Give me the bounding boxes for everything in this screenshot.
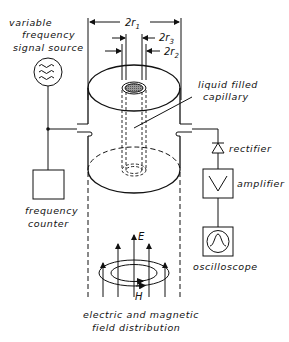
field-distribution: E H electric and magnetic field distribu…: [83, 231, 199, 333]
e-field-label: E: [138, 231, 145, 242]
h-field-label: H: [135, 291, 143, 302]
source-label-3: signal source: [13, 42, 84, 53]
dim-label-2r1: 2r1: [125, 17, 140, 31]
capillary-label-1: liquid filled: [198, 79, 258, 90]
amplifier-label: amplifier: [237, 178, 285, 189]
amplifier-box: [203, 169, 233, 198]
dim-label-2r2: 2r2: [164, 46, 179, 60]
field-label-2: field distribution: [92, 322, 180, 333]
signal-source: variable frequency signal source: [9, 17, 84, 170]
source-label-2: frequency: [22, 29, 75, 40]
frequency-counter: frequency counter: [25, 170, 78, 229]
sine-wave-generator-icon: [34, 58, 62, 86]
capillary-label-2: capillary: [203, 91, 249, 102]
detection-chain: rectifier amplifier oscilloscope: [192, 129, 285, 272]
field-label-1: electric and magnetic: [83, 309, 199, 320]
dim-label-2r3: 2r3: [159, 32, 174, 46]
liquid-filled-capillary: liquid filled capillary: [122, 79, 258, 176]
amplifier-icon: [209, 176, 227, 191]
source-label-1: variable: [9, 17, 52, 28]
gaussian-pulse-icon: [210, 234, 226, 246]
counter-label-1: frequency: [25, 205, 78, 216]
counter-label-2: counter: [28, 218, 69, 229]
resonator-diagram: 2r1 2r3 2r2 liquid filled: [0, 0, 289, 342]
oscilloscope-label: oscilloscope: [193, 261, 258, 272]
diode-icon: [212, 143, 224, 153]
rectifier-label: rectifier: [229, 143, 272, 154]
